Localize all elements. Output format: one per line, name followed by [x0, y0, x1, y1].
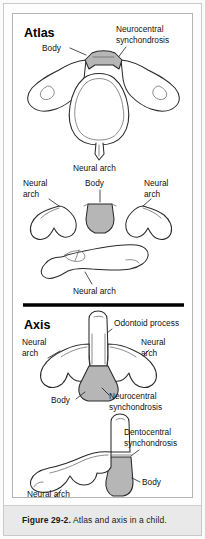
atlas-neural-arch-left-label-line2: arch — [23, 189, 40, 199]
axis-body-label: Body — [51, 395, 71, 405]
atlas-heading: Atlas — [24, 26, 55, 40]
atlas-neural-arch-right-label-line1: Neural — [144, 178, 169, 188]
atlas-neurocentral-label-line2: synchondrosis — [116, 35, 169, 45]
axis-body-lateral-label: Body — [142, 477, 162, 487]
atlas-body-mid-label: Body — [85, 178, 105, 188]
axis-neural-arch-lateral-label: Neural arch — [27, 489, 70, 498]
illustration-panel: Atlas Body Neurocentral synchondrosis Ne… — [12, 13, 193, 498]
axis-heading: Axis — [24, 318, 50, 332]
atlas-posterior-arch — [69, 74, 129, 146]
atlas-neural-arch-bottom-label: Neural arch — [73, 163, 116, 173]
figure-caption-body: Atlas and axis in a child. — [73, 515, 167, 525]
atlas-posterior-tubercle — [95, 143, 104, 160]
atlas-right-lateral-mass — [121, 60, 179, 111]
atlas-neural-arch-left-label-line1: Neural — [23, 178, 48, 188]
atlas-body-leader — [70, 48, 86, 55]
figure-container: Atlas Body Neurocentral synchondrosis Ne… — [0, 0, 205, 539]
atlas-lateral-neural-arch-leader — [85, 272, 92, 284]
figure-caption-label: Figure 29-2. — [22, 515, 71, 525]
axis-odontoid-label: Odontoid process — [114, 318, 179, 328]
axis-dentocentral-label-line1: Dentocentral — [124, 427, 171, 437]
axis-neural-arch-left-label-line1: Neural — [22, 337, 47, 347]
atlas-neural-arch-lateral-label: Neural arch — [73, 286, 116, 296]
axis-neurocentral-label-line1: Neurocentral — [109, 391, 157, 401]
anatomical-illustration: Atlas Body Neurocentral synchondrosis Ne… — [13, 14, 193, 498]
axis-neurocentral-label-line2: synchondrosis — [109, 402, 162, 412]
atlas-left-hemiarch — [30, 206, 76, 239]
atlas-neural-arch-right-label-line2: arch — [144, 189, 161, 199]
atlas-neurocentral-label-line1: Neurocentral — [116, 24, 164, 34]
axis-lateral-neural-arch — [30, 452, 111, 493]
axis-neural-arch-left-label-line2: arch — [22, 348, 39, 358]
atlas-body-synchondrosis-shade — [85, 51, 122, 69]
atlas-neural-arch-left-leader — [49, 199, 59, 206]
axis-neural-arch-right-label-line1: Neural — [141, 337, 166, 347]
atlas-anterior-body-shade — [86, 204, 114, 233]
axis-dentocentral-leader — [131, 450, 139, 456]
atlas-lateral-outline — [41, 245, 148, 279]
atlas-right-hemiarch — [126, 206, 172, 239]
caption-band: Figure 29-2. Atlas and axis in a child. — [4, 505, 201, 535]
axis-dentocentral-label-line2: synchondrosis — [124, 438, 177, 448]
atlas-neural-arch-right-leader — [143, 199, 151, 206]
atlas-body-label: Body — [42, 43, 62, 53]
figure-caption: Figure 29-2. Atlas and axis in a child. — [22, 515, 167, 525]
